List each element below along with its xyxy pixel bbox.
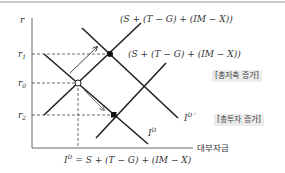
equilibrium-e1-filled-circle [107,51,113,57]
tick-r2: r2 [18,110,26,121]
savings-increase-tag: [총저축 증가] [212,70,262,82]
investment-curve-shifted [82,28,178,118]
investment-shifted-label: ID ' [183,111,196,123]
savings-shifted-label: (S + (T − G) + (IM − X)) [128,49,241,59]
equilibrium-e2-filled-square [111,112,117,118]
equilibrium-e0-open-circle [75,80,81,86]
loanable-funds-diagram: r r1 r0 r2 (S + (T − G) + (IM − X)) (S +… [0,0,285,173]
savings-original-label: (S + (T − G) + (IM − X)) [120,14,233,24]
investment-increase-tag: [총투자 증가] [214,114,264,126]
arrow-savings-increase [84,90,104,110]
tick-r0: r0 [18,78,26,89]
y-axis-label: r [20,15,25,25]
x-axis-label: 대부자금 [197,143,229,153]
bottom-identity: ID = S + (T − G) + (IM − X) [63,153,192,165]
diagram-canvas: r r1 r0 r2 (S + (T − G) + (IM − X)) (S +… [0,0,285,173]
tick-r1: r1 [18,49,26,60]
investment-original-label: ID [147,126,157,138]
